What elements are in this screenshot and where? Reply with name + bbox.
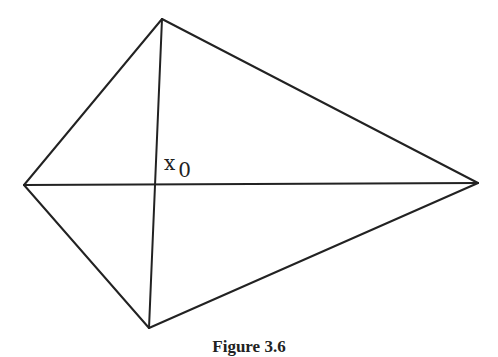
diagonal-vertical	[149, 19, 162, 328]
edge-left-top	[24, 19, 162, 185]
edge-right-bottom	[149, 183, 478, 328]
edge-top-right	[162, 19, 478, 183]
point-label-x0: x0	[164, 151, 191, 182]
edge-bottom-left	[24, 185, 149, 328]
diagonal-horizontal	[24, 183, 478, 185]
figure-caption: Figure 3.6	[0, 337, 498, 357]
